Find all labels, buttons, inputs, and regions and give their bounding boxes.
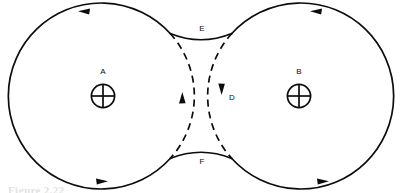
arrow-neck-right-down-icon xyxy=(218,84,225,96)
circle-cross-icon-a xyxy=(91,84,114,107)
label-b: B xyxy=(296,67,302,76)
figure-caption: Figure 2.22 xyxy=(8,184,64,193)
neck-upper-curve xyxy=(170,34,232,40)
circle-b-solid-arc xyxy=(232,3,394,189)
arrow-neck-left-up-icon xyxy=(179,92,186,104)
arrow-top-left-icon xyxy=(78,9,90,15)
label-d: D xyxy=(229,93,235,102)
arrow-bottom-right-icon xyxy=(317,179,329,185)
label-f: F xyxy=(199,157,204,166)
label-e: E xyxy=(199,24,205,33)
circle-cross-icon-b xyxy=(287,84,310,107)
arrow-top-right-icon xyxy=(310,9,322,15)
arrow-bottom-left-icon xyxy=(96,179,108,185)
circle-a-solid-arc xyxy=(8,3,170,189)
label-a: A xyxy=(100,67,106,76)
figure-container: A B D E F Figure 2.22 xyxy=(0,0,404,193)
two-circle-field-diagram: A B D E F xyxy=(0,0,404,193)
